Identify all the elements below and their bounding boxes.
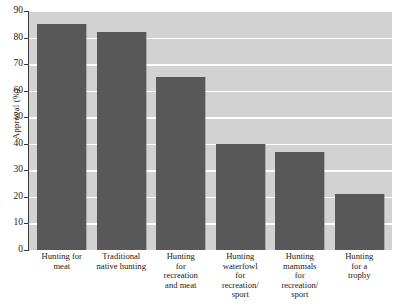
bar (97, 32, 146, 250)
y-axis-tick-mark (24, 223, 28, 224)
x-axis-tick-label: Huntingfor atrophy (330, 252, 390, 300)
x-axis-tick-label: Traditionalnative hunting (92, 252, 152, 300)
y-axis-tick-labels: 9080706050403020100 (0, 0, 27, 304)
y-axis-tick-mark (24, 64, 28, 65)
bar-chart: Approval (%) 9080706050403020100 Hunting… (0, 0, 403, 304)
y-axis-tick-label: 50 (14, 112, 24, 122)
y-axis-tick-mark (24, 250, 28, 251)
x-axis-tick-label-line: meat (33, 262, 91, 272)
bar-slot (330, 11, 390, 250)
bar (216, 144, 265, 250)
y-axis-tick-mark (24, 117, 28, 118)
plot-area (29, 11, 392, 250)
bar (156, 77, 205, 250)
y-axis-tick-label: 40 (14, 139, 24, 149)
y-axis-tick-label: 90 (14, 6, 24, 16)
y-axis-tick-label: 20 (14, 192, 24, 202)
bars-container (29, 11, 392, 250)
y-axis-tick-mark (24, 197, 28, 198)
bar-slot (92, 11, 152, 250)
y-axis-tick-mark (24, 170, 28, 171)
y-axis-tick-label: 80 (14, 33, 24, 43)
bar-slot (32, 11, 92, 250)
x-axis-tick-label-line: native hunting (93, 262, 151, 272)
y-axis-tick-label: 70 (14, 59, 24, 69)
x-axis-tick-label: Hunting formeat (32, 252, 92, 300)
bar (37, 24, 86, 250)
y-axis-tick-mark (24, 144, 28, 145)
x-axis-tick-label: Huntingwaterfowlforrecreation/sport (211, 252, 271, 300)
x-axis-tick-label-line: trophy (331, 271, 389, 281)
x-axis-tick-labels: Hunting formeatTraditionalnative hunting… (29, 252, 392, 300)
x-axis-tick-label: Huntingmammalsforrecreation/sport (270, 252, 330, 300)
y-axis-tick-label: 60 (14, 86, 24, 96)
bar (275, 152, 324, 250)
y-axis-tick-mark (24, 38, 28, 39)
x-axis-tick-label-line: sport (212, 290, 270, 300)
bar-slot (270, 11, 330, 250)
bar-slot (211, 11, 271, 250)
bar (335, 194, 384, 250)
x-axis-tick-label-line: sport (271, 290, 329, 300)
y-axis-tick-label: 30 (14, 165, 24, 175)
y-axis-tick-mark (24, 11, 28, 12)
x-axis-tick-label-line: and meat (152, 281, 210, 291)
y-axis-tick-label: 0 (18, 245, 23, 255)
bar-slot (151, 11, 211, 250)
y-axis-tick-label: 10 (14, 218, 24, 228)
x-axis-tick-label: Huntingforrecreationand meat (151, 252, 211, 300)
y-axis-tick-mark (24, 91, 28, 92)
